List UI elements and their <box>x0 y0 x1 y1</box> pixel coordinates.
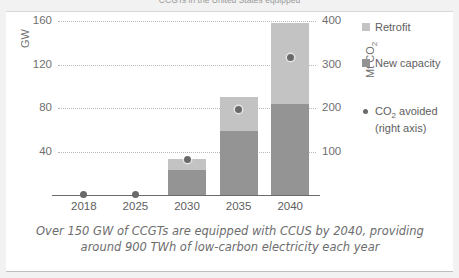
bar-segment-retrofit[interactable] <box>220 97 258 131</box>
x-axis-line <box>52 195 320 196</box>
co2-marker-2030[interactable] <box>184 156 191 163</box>
caption-line-2: around 900 TWh of low-carbon electricity… <box>28 239 432 255</box>
co2-marker-2025[interactable] <box>132 191 139 198</box>
x-axis-label-2018: 2018 <box>58 200 110 212</box>
x-axis-labels: 20182025203020352040 <box>58 200 316 218</box>
right-axis-tick-label: 300 <box>322 59 341 70</box>
bar-2040[interactable] <box>271 21 309 195</box>
bar-segment-retrofit[interactable] <box>271 23 309 103</box>
right-axis-tick-label: 400 <box>322 15 341 26</box>
legend-label: New capacity <box>375 57 440 70</box>
x-axis-label-2030: 2030 <box>161 200 213 212</box>
bar-segment-new-capacity[interactable] <box>220 131 258 195</box>
clipped-chart-title-text: CCGTs in the United States equipped <box>0 0 459 5</box>
legend-item-3[interactable]: CO2 avoided(right axis) <box>362 105 438 135</box>
legend-item-2[interactable]: New capacity <box>362 57 440 70</box>
bar-segment-new-capacity[interactable] <box>271 104 309 195</box>
left-axis-tick-label: 40 <box>39 146 52 157</box>
x-axis-label-2025: 2025 <box>109 200 161 212</box>
chart-caption: Over 150 GW of CCGTs are equipped with C… <box>28 223 432 255</box>
left-axis-tick-label: 160 <box>33 15 52 26</box>
legend-swatch-icon <box>362 59 370 67</box>
right-axis-tick-label: 200 <box>322 102 341 113</box>
right-axis-ticks: 100200300400 <box>322 21 362 195</box>
chart-figure: 4080120160 100200300400 GW Mt CO2 201820… <box>6 11 453 272</box>
legend-dot-icon <box>363 109 368 114</box>
legend-swatch-icon <box>362 23 370 31</box>
x-axis-label-2040: 2040 <box>264 200 316 212</box>
bar-2030[interactable] <box>168 21 206 195</box>
plot-area <box>58 21 316 195</box>
legend-label: CO2 avoided(right axis) <box>375 105 438 135</box>
legend-item-1[interactable]: Retrofit <box>362 21 410 34</box>
co2-marker-2018[interactable] <box>80 191 87 198</box>
caption-line-1: Over 150 GW of CCGTs are equipped with C… <box>28 223 432 239</box>
x-axis-label-2035: 2035 <box>213 200 265 212</box>
left-axis-title: GW <box>19 29 31 48</box>
left-axis-tick-label: 80 <box>39 102 52 113</box>
left-axis-tick-label: 120 <box>33 59 52 70</box>
legend-label: Retrofit <box>375 21 410 34</box>
clipped-chart-title: CCGTs in the United States equipped <box>0 0 459 11</box>
right-axis-tick-label: 100 <box>322 146 341 157</box>
bar-segment-new-capacity[interactable] <box>168 170 206 195</box>
